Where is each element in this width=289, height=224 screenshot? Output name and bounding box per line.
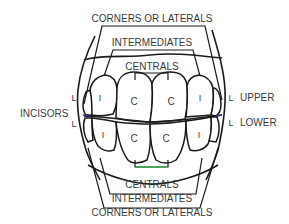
- lower-intermediate-right-code: I: [198, 130, 201, 140]
- lower-intermediate-left-code: I: [102, 130, 105, 140]
- upper-left-corner-code: L: [71, 93, 76, 103]
- upper-central-right-code: C: [167, 96, 174, 107]
- upper-intermediate-left-code: I: [99, 93, 102, 103]
- top-centrals-label: CENTRALS: [125, 61, 179, 72]
- upper-central-left-code: C: [130, 96, 137, 107]
- incisors-diagram: I C C I I C C I L L L L INCISORS UPPER L…: [0, 0, 289, 224]
- upper-intermediate-left: [90, 75, 117, 116]
- top-intermediates-label: INTERMEDIATES: [112, 37, 193, 48]
- upper-right-corner-code: L: [228, 93, 233, 103]
- lower-label: LOWER: [240, 117, 277, 128]
- incisors-label: INCISORS: [20, 108, 69, 119]
- lower-left-corner-code: L: [71, 119, 76, 129]
- top-corners-label: CORNERS OR LATERALS: [92, 13, 213, 24]
- blue-accent-left: [83, 115, 89, 116]
- lower-intermediate-left: [92, 118, 117, 151]
- lower-right-corner-code: L: [228, 118, 233, 128]
- upper-gum-outline: [84, 54, 222, 60]
- upper-intermediate-right-code: I: [199, 93, 202, 103]
- lower-central-right-code: C: [162, 133, 169, 144]
- bottom-centrals-label: CENTRALS: [125, 179, 179, 190]
- bottom-corners-label: CORNERS OR LATERALS: [92, 207, 213, 218]
- bottom-intermediates-label: INTERMEDIATES: [112, 193, 193, 204]
- upper-label: UPPER: [240, 92, 274, 103]
- lower-central-left-code: C: [130, 133, 137, 144]
- blue-accent-right: [216, 115, 222, 116]
